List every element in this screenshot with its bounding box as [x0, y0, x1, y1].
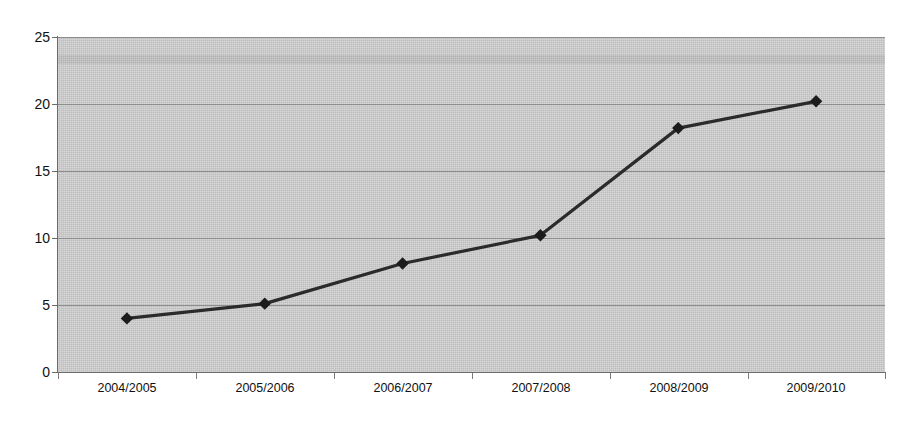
x-axis-label-2007-2008: 2007/2008 [511, 382, 570, 395]
x-tick-mark-6 [885, 373, 886, 379]
plot-area [58, 37, 885, 372]
gridline-10 [58, 238, 885, 239]
y-axis-label-5: 5 [6, 298, 50, 312]
x-tick-mark-3 [472, 373, 473, 379]
y-tick-mark-25 [52, 37, 57, 38]
y-axis-line [57, 36, 58, 373]
gridline-15 [58, 171, 885, 172]
x-tick-mark-4 [610, 373, 611, 379]
y-axis-label-15: 15 [6, 164, 50, 178]
x-axis-label-2004-2005: 2004/2005 [97, 382, 156, 395]
gridline-25 [58, 37, 885, 38]
y-axis-labels: 25 20 15 10 5 0 [0, 0, 50, 428]
x-axis-label-2006-2007: 2006/2007 [373, 382, 432, 395]
line-chart: 25 20 15 10 5 0 2004/2005 2005/2006 2006… [0, 0, 920, 428]
x-axis-label-2005-2006: 2005/2006 [235, 382, 294, 395]
x-tick-mark-5 [748, 373, 749, 379]
gridline-5 [58, 305, 885, 306]
y-tick-mark-10 [52, 238, 57, 239]
x-axis-label-2009-2010: 2009/2010 [786, 382, 845, 395]
y-tick-mark-5 [52, 305, 57, 306]
y-axis-label-25: 25 [6, 30, 50, 44]
y-axis-label-10: 10 [6, 231, 50, 245]
x-tick-mark-1 [196, 373, 197, 379]
gridline-20 [58, 104, 885, 105]
y-tick-mark-20 [52, 104, 57, 105]
scan-artifact-band [58, 55, 885, 64]
y-axis-label-20: 20 [6, 97, 50, 111]
y-tick-mark-0 [52, 372, 57, 373]
x-tick-mark-2 [334, 373, 335, 379]
y-axis-label-0: 0 [6, 365, 50, 379]
x-axis-label-2008-2009: 2008/2009 [649, 382, 708, 395]
y-tick-mark-15 [52, 171, 57, 172]
x-tick-mark-0 [58, 373, 59, 379]
